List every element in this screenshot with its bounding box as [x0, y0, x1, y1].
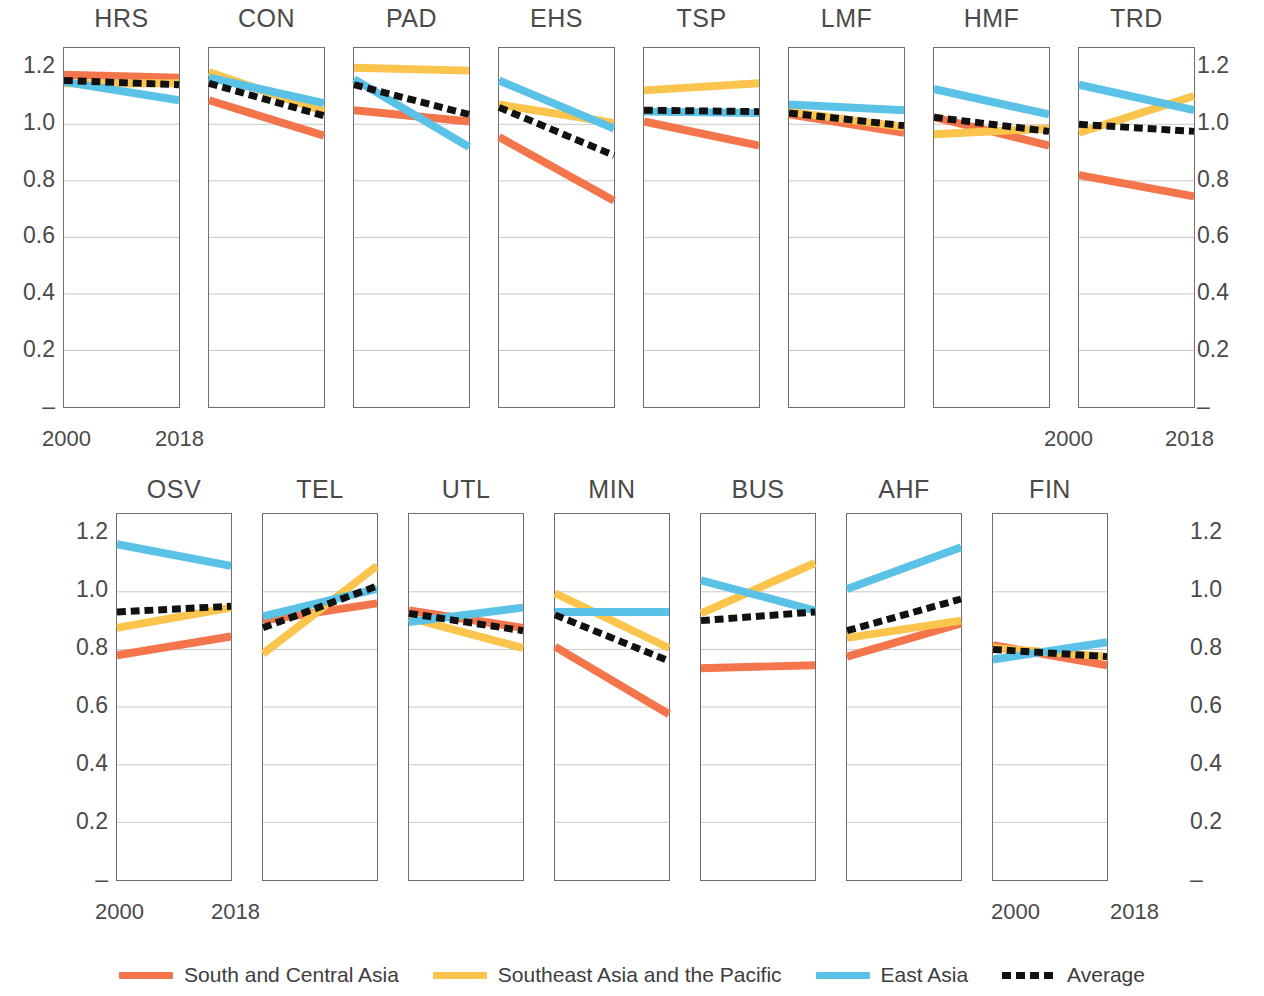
legend-swatch-icon — [816, 972, 870, 979]
plot-area-hmf — [933, 47, 1050, 408]
plot-area-utl — [408, 513, 524, 881]
panel-pad: PAD — [353, 47, 470, 408]
panel-title-min: MIN — [554, 475, 670, 504]
legend-label: Average — [1067, 963, 1145, 987]
legend-swatch-icon — [433, 972, 487, 979]
y-tick-label: 0.6 — [0, 222, 55, 249]
x-end-label-row2-right: 2018 — [1110, 899, 1159, 925]
panel-title-con: CON — [208, 4, 325, 33]
plot-area-trd — [1078, 47, 1195, 408]
series-line-south-central-asia — [1079, 175, 1194, 196]
series-line-average — [64, 81, 179, 85]
legend-item-0[interactable]: South and Central Asia — [119, 963, 399, 987]
plot-area-ehs — [498, 47, 615, 408]
plot-area-tsp — [643, 47, 760, 408]
panel-ahf: AHF — [846, 513, 962, 881]
panel-title-bus: BUS — [700, 475, 816, 504]
plot-area-min — [554, 513, 670, 881]
panel-trd: TRD — [1078, 47, 1195, 408]
y-tick-label: 1.0 — [1197, 109, 1253, 136]
y-tick-label: 0.4 — [0, 279, 55, 306]
x-end-label-row1-right: 2018 — [1165, 426, 1214, 452]
y-tick-label: – — [1190, 866, 1246, 893]
panel-fin: FIN — [992, 513, 1108, 881]
panel-con: CON — [208, 47, 325, 408]
y-tick-label: 0.6 — [1190, 692, 1246, 719]
series-line-east-asia — [789, 105, 904, 111]
chart-legend: South and Central AsiaSoutheast Asia and… — [0, 955, 1264, 995]
y-tick-label: 1.2 — [52, 518, 108, 545]
panel-title-ehs: EHS — [498, 4, 615, 33]
panel-min: MIN — [554, 513, 670, 881]
small-multiples-chart: 1.21.00.80.60.40.2– 1.21.00.80.60.40.2– … — [0, 0, 1264, 996]
panel-title-hmf: HMF — [933, 4, 1050, 33]
x-end-label-row1-left: 2018 — [155, 426, 204, 452]
panel-tel: TEL — [262, 513, 378, 881]
panel-ehs: EHS — [498, 47, 615, 408]
panel-osv: OSV — [116, 513, 232, 881]
series-line-south-central-asia — [64, 75, 179, 78]
panel-hmf: HMF — [933, 47, 1050, 408]
y-tick-label: 1.2 — [1197, 52, 1253, 79]
series-line-east-asia — [847, 547, 961, 589]
x-start-label-row1-right: 2000 — [1044, 426, 1093, 452]
plot-area-osv — [116, 513, 232, 881]
y-tick-label: 0.6 — [52, 692, 108, 719]
x-start-label-row1-left: 2000 — [42, 426, 91, 452]
series-line-east-asia — [117, 544, 231, 566]
x-end-label-row2-left: 2018 — [211, 899, 260, 925]
legend-label: Southeast Asia and the Pacific — [498, 963, 782, 987]
panel-title-tel: TEL — [262, 475, 378, 504]
y-tick-label: 1.0 — [1190, 576, 1246, 603]
y-tick-label: 0.8 — [0, 166, 55, 193]
legend-label: East Asia — [881, 963, 969, 987]
y-tick-label: 0.4 — [52, 750, 108, 777]
legend-item-3[interactable]: Average — [1002, 963, 1145, 987]
y-tick-label: 0.8 — [1190, 634, 1246, 661]
panel-title-tsp: TSP — [643, 4, 760, 33]
series-line-average — [644, 110, 759, 111]
panel-title-fin: FIN — [992, 475, 1108, 504]
y-tick-label: – — [1197, 393, 1253, 420]
panel-hrs: HRS — [63, 47, 180, 408]
y-tick-label: 0.2 — [0, 336, 55, 363]
x-start-label-row2-right: 2000 — [991, 899, 1040, 925]
panel-lmf: LMF — [788, 47, 905, 408]
series-line-east-asia — [934, 89, 1049, 114]
series-line-southeast-asia-pacific — [644, 83, 759, 90]
y-tick-label: – — [0, 393, 55, 420]
plot-area-ahf — [846, 513, 962, 881]
y-tick-label: 0.4 — [1190, 750, 1246, 777]
panel-bus: BUS — [700, 513, 816, 881]
panel-title-hrs: HRS — [63, 4, 180, 33]
legend-swatch-icon — [119, 972, 173, 979]
plot-area-tel — [262, 513, 378, 881]
y-tick-label: 1.2 — [0, 52, 55, 79]
x-start-label-row2-left: 2000 — [95, 899, 144, 925]
plot-area-pad — [353, 47, 470, 408]
series-line-south-central-asia — [644, 122, 759, 146]
series-line-south-central-asia — [117, 636, 231, 655]
y-tick-label: 0.6 — [1197, 222, 1253, 249]
panel-title-ahf: AHF — [846, 475, 962, 504]
series-line-south-central-asia — [555, 647, 669, 715]
panel-tsp: TSP — [643, 47, 760, 408]
y-tick-label: 1.2 — [1190, 518, 1246, 545]
legend-item-2[interactable]: East Asia — [816, 963, 969, 987]
y-tick-label: 0.2 — [1190, 808, 1246, 835]
panel-title-osv: OSV — [116, 475, 232, 504]
y-tick-label: 0.8 — [1197, 166, 1253, 193]
panel-title-trd: TRD — [1078, 4, 1195, 33]
plot-area-con — [208, 47, 325, 408]
legend-item-1[interactable]: Southeast Asia and the Pacific — [433, 963, 782, 987]
y-tick-label: 0.2 — [52, 808, 108, 835]
legend-label: South and Central Asia — [184, 963, 399, 987]
panel-title-pad: PAD — [353, 4, 470, 33]
y-tick-label: 1.0 — [0, 109, 55, 136]
plot-area-bus — [700, 513, 816, 881]
plot-area-hrs — [63, 47, 180, 408]
y-tick-label: – — [52, 866, 108, 893]
plot-area-fin — [992, 513, 1108, 881]
series-line-south-central-asia — [701, 665, 815, 668]
panel-utl: UTL — [408, 513, 524, 881]
